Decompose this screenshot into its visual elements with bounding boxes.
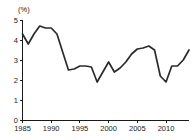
line-chart-figure: 012345 198519901995200020052010 (%) [0, 0, 192, 140]
y-axis-tick-label: 4 [14, 36, 18, 45]
x-axis-tick-label: 2000 [100, 124, 117, 133]
data-series-line [23, 26, 190, 82]
y-axis-tick-label: 5 [14, 16, 18, 25]
x-axis-tick-label: 1995 [72, 124, 89, 133]
x-axis-tick-label: 2005 [129, 124, 146, 133]
chart-canvas: 012345 198519901995200020052010 (%) [0, 0, 192, 140]
x-axis-tick-label: 2010 [158, 124, 175, 133]
x-axis-tick-label: 1990 [43, 124, 60, 133]
y-axis-tick-label: 1 [14, 96, 18, 105]
x-axis-tick-label: 1985 [14, 124, 31, 133]
y-axis-unit-label: (%) [18, 5, 30, 14]
y-axis-tick-label-group: 012345 [14, 16, 18, 125]
y-axis-tick-label: 3 [14, 56, 18, 65]
y-axis-tick-label: 2 [14, 76, 18, 85]
x-axis-tick-label-group: 198519901995200020052010 [14, 124, 174, 133]
